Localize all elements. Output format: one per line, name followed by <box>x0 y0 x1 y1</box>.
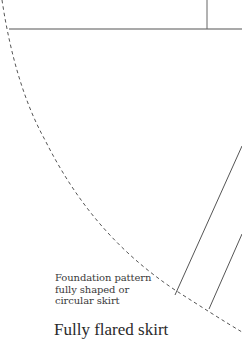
panel-line-1 <box>175 146 242 295</box>
caption-line-2: fully shaped or <box>55 284 165 296</box>
caption-line-1: Foundation pattern <box>55 272 165 284</box>
panel-line-2 <box>209 234 242 309</box>
pattern-caption: Foundation pattern fully shaped or circu… <box>55 272 165 307</box>
caption-line-3: circular skirt <box>55 295 165 307</box>
figure-title: Fully flared skirt <box>54 320 168 340</box>
